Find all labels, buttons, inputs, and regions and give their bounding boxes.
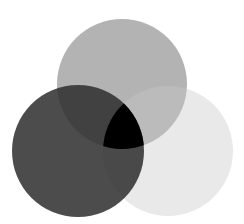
venn-diagram xyxy=(0,0,244,224)
